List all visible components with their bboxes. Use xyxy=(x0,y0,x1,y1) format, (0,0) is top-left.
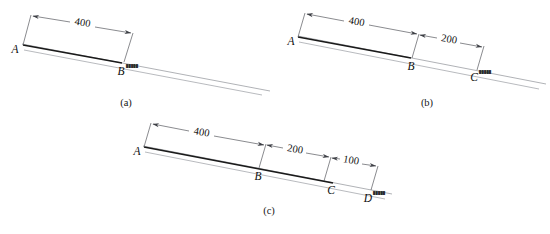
dim-line-100-c-left xyxy=(332,158,340,159)
dim-value-400-c: 400 xyxy=(193,125,210,139)
dim-value-200-b: 200 xyxy=(440,32,457,46)
caption-panel-c: (c) xyxy=(263,205,275,217)
dim-line-100-c-right xyxy=(362,164,376,166)
dim-line-200-c-right xyxy=(306,153,329,157)
point-label-c-D: D xyxy=(363,192,373,204)
annotation-mark-b: █████ xyxy=(479,70,492,74)
dim-line-400-a-left xyxy=(33,16,70,22)
extension-line-b-A xyxy=(298,13,305,37)
ground-line-lower-a xyxy=(24,50,262,95)
dim-value-100-c: 100 xyxy=(342,153,359,167)
panel-b: 400 200 A B C █████ (b) xyxy=(286,13,546,109)
point-label-c-B: B xyxy=(254,170,261,182)
point-label-b-B: B xyxy=(407,60,414,72)
extension-line-b-C xyxy=(477,46,484,70)
dim-value-400-b: 400 xyxy=(348,15,365,29)
dim-line-200-b-left xyxy=(420,35,437,38)
dim-line-400-b-right xyxy=(369,25,417,34)
point-label-c-A: A xyxy=(132,145,141,157)
segment-ac-c xyxy=(144,147,333,183)
extension-line-b-B xyxy=(412,34,419,58)
extension-line-c-B xyxy=(259,144,266,168)
extension-line-c-C xyxy=(324,157,331,181)
panel-c: 400 200 100 A B C D █████ (c) xyxy=(132,123,392,217)
dim-line-400-a-right xyxy=(95,27,131,33)
segment-ab-b xyxy=(298,37,411,58)
dim-line-400-c-left xyxy=(153,124,189,131)
caption-panel-a: (a) xyxy=(120,97,132,109)
segment-ab-a xyxy=(23,45,122,63)
point-label-a-B: B xyxy=(117,65,124,77)
point-label-a-A: A xyxy=(10,43,19,55)
dim-value-400-a: 400 xyxy=(74,16,91,29)
annotation-mark-c: █████ xyxy=(373,191,386,195)
dim-line-200-b-right xyxy=(460,43,482,47)
point-label-c-C: C xyxy=(327,184,335,196)
dim-value-200-c: 200 xyxy=(286,142,303,156)
dim-line-200-c-left xyxy=(267,145,283,148)
extension-line-a-left xyxy=(23,15,31,45)
diagram-canvas: 400 A B █████ (a) 400 xyxy=(0,0,550,234)
figure-root: 400 A B █████ (a) 400 xyxy=(0,0,550,234)
caption-panel-b: (b) xyxy=(421,97,434,109)
extension-line-a-right xyxy=(124,33,133,62)
extension-line-c-D xyxy=(371,166,378,190)
dim-line-400-b-left xyxy=(307,14,344,21)
ground-line-lower-b xyxy=(299,42,539,89)
point-label-b-A: A xyxy=(286,35,295,47)
point-label-b-C: C xyxy=(470,71,478,83)
panel-a: 400 A B █████ (a) xyxy=(10,15,270,109)
annotation-mark-a: █████ xyxy=(126,64,139,68)
extension-line-c-A xyxy=(144,123,151,147)
dim-line-400-c-right xyxy=(214,136,264,145)
